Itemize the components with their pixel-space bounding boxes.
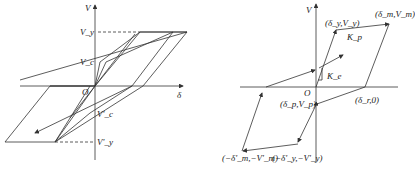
point-yield-label: (δ_y,V_y) bbox=[325, 19, 359, 28]
point-neg-max-label: (−δ'_m,−V'_m) bbox=[222, 154, 278, 163]
left-v-axis-label: V bbox=[85, 4, 91, 13]
left-hysteresis-plot bbox=[5, 5, 187, 160]
right-v-axis-label: V bbox=[306, 6, 312, 15]
point-neg-yield-label: (−δ'_y,−V'_y) bbox=[272, 154, 322, 163]
point-p-label: (δ_p,V_p) bbox=[280, 100, 316, 109]
left-origin-label: O bbox=[82, 88, 89, 97]
right-hysteresis-plot bbox=[240, 4, 398, 162]
kp-label: K_p bbox=[347, 33, 362, 42]
point-max-label: (δ_m,V_m) bbox=[375, 10, 415, 19]
vy-neg-label: V'_y bbox=[97, 138, 113, 147]
point-residual-label: (δ_r,0) bbox=[355, 96, 379, 105]
left-delta-axis-label: δ bbox=[177, 91, 181, 100]
right-origin-label: O bbox=[304, 89, 311, 98]
vc-label: V_c bbox=[80, 58, 94, 67]
vc-neg-label: V'_c bbox=[97, 110, 113, 119]
vy-label: V_y bbox=[80, 28, 94, 37]
ke-label: K_e bbox=[327, 72, 342, 81]
